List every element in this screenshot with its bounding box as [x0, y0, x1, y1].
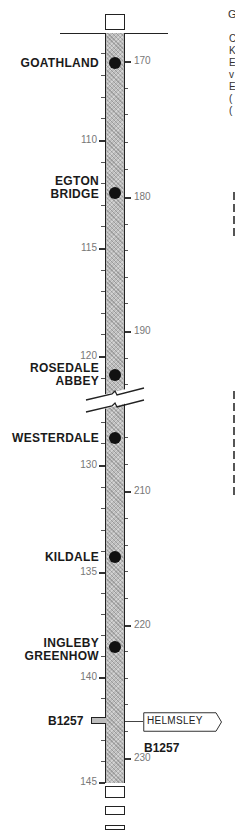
route-break-icon [84, 386, 146, 418]
km-minor-tick [125, 114, 128, 115]
stop-dot-kildale [109, 551, 121, 563]
mile-label-145: 145 [80, 777, 97, 787]
mile-tick-140 [99, 677, 105, 679]
place-kildale: KILDALE [45, 551, 99, 564]
mile-minor-tick [101, 422, 105, 423]
place-westerdale: WESTERDALE [12, 432, 99, 445]
km-tick-180 [125, 197, 131, 199]
km-label-220: 220 [134, 620, 151, 630]
side-road-stub [91, 717, 106, 724]
km-minor-tick [125, 358, 128, 359]
km-minor-tick [125, 731, 128, 732]
mile-label-110: 110 [81, 135, 97, 145]
mile-minor-tick [101, 443, 105, 444]
heading-fragment: G [228, 8, 235, 20]
mile-minor-tick [101, 313, 105, 314]
text-fragment: C [229, 33, 235, 45]
text-fragment: ( [229, 93, 232, 105]
km-minor-tick [125, 571, 128, 572]
text-fragment: v [229, 69, 234, 81]
junction-connector-line [125, 721, 143, 722]
text-fragment: K [229, 45, 235, 57]
mile-minor-tick [101, 75, 105, 76]
route-start-box [105, 14, 125, 30]
mile-tick-130 [99, 465, 105, 467]
km-minor-tick [125, 169, 128, 170]
km-minor-tick [125, 142, 128, 143]
mile-minor-tick [101, 378, 105, 379]
stop-dot-egton-bridge [109, 187, 121, 199]
km-tick-230 [125, 758, 131, 760]
mile-minor-tick [101, 551, 105, 552]
mile-label-120: 120 [80, 351, 97, 361]
mile-minor-tick [101, 118, 105, 119]
text-fragment-bar [233, 192, 235, 240]
km-minor-tick [125, 250, 128, 251]
mile-tick-135 [99, 572, 105, 574]
mile-minor-tick [101, 162, 105, 163]
mile-minor-tick [101, 183, 105, 184]
km-minor-tick [125, 88, 128, 89]
mile-minor-tick [101, 761, 105, 762]
mile-minor-tick [101, 508, 105, 509]
km-minor-tick [125, 651, 128, 652]
mile-minor-tick [101, 635, 105, 636]
mile-minor-tick [101, 487, 105, 488]
km-minor-tick [125, 545, 128, 546]
text-fragment: E [229, 81, 235, 93]
km-minor-tick [125, 303, 128, 304]
mile-minor-tick [101, 656, 105, 657]
mile-label-140: 140 [80, 672, 97, 682]
place-goathland: GOATHLAND [21, 57, 99, 70]
km-tick-220 [125, 625, 131, 627]
mile-tick-120 [99, 356, 105, 358]
mile-minor-tick [101, 740, 105, 741]
mile-minor-tick [101, 698, 105, 699]
route-end-box-2 [105, 806, 125, 815]
mile-minor-tick [101, 530, 105, 531]
km-label-170: 170 [134, 56, 151, 66]
km-tick-170 [125, 61, 131, 63]
mile-label-135: 135 [80, 567, 97, 577]
route-end-box-1 [105, 786, 125, 798]
junction-road-label-left: B1257 [48, 714, 83, 728]
km-minor-tick [125, 598, 128, 599]
km-minor-tick [125, 437, 128, 438]
km-minor-tick [125, 277, 128, 278]
mile-minor-tick [101, 270, 105, 271]
mile-minor-tick [101, 614, 105, 615]
stop-dot-ingleby-greenhow [109, 641, 121, 653]
stop-dot-goathland [109, 57, 121, 69]
place-ingleby-greenhow: INGLEBYGREENHOW [25, 637, 99, 663]
stop-dot-westerdale [109, 432, 121, 444]
mile-minor-tick [101, 334, 105, 335]
text-fragment: ( [229, 105, 232, 117]
route-end-box-3 [105, 825, 125, 830]
direction-sign-label: HELMSLEY [147, 715, 203, 726]
stop-dot-rosedale-abbey [109, 369, 121, 381]
km-tick-210 [125, 491, 131, 493]
km-minor-tick [125, 704, 128, 705]
mile-minor-tick [101, 226, 105, 227]
text-fragment: E [229, 57, 235, 69]
km-minor-tick [125, 464, 128, 465]
km-minor-tick [125, 384, 128, 385]
mile-tick-145 [99, 782, 105, 784]
junction-road-label-right: B1257 [144, 741, 179, 755]
km-label-190: 190 [134, 326, 151, 336]
mile-tick-110 [99, 140, 105, 142]
place-rosedale-abbey: ROSEDALEABBEY [30, 362, 99, 388]
place-egton-bridge: EGTONBRIDGE [51, 175, 99, 201]
mile-label-130: 130 [80, 460, 97, 470]
km-tick-190 [125, 331, 131, 333]
text-fragment-bar [233, 391, 235, 499]
mile-minor-tick [101, 593, 105, 594]
km-minor-tick [125, 224, 128, 225]
km-minor-tick [125, 678, 128, 679]
mile-minor-tick [101, 97, 105, 98]
km-label-210: 210 [134, 486, 151, 496]
mile-tick-115 [99, 248, 105, 250]
km-label-180: 180 [134, 192, 151, 202]
mile-label-115: 115 [81, 243, 97, 253]
mile-minor-tick [101, 205, 105, 206]
